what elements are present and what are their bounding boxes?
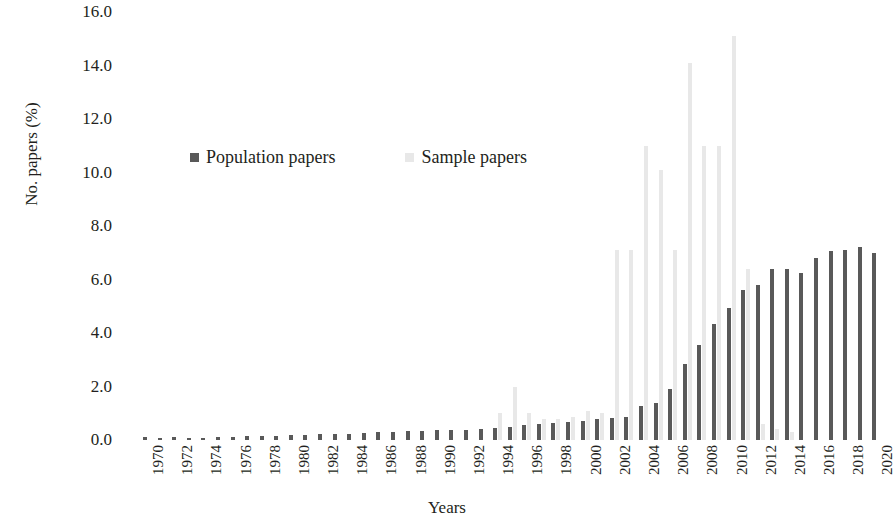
bar-group [330,12,345,440]
bar-population-papers [391,432,395,440]
bar-population-papers [508,427,512,440]
bar-group [534,12,549,440]
bar-sample-papers [790,432,794,440]
bar-group [271,12,286,440]
bar-population-papers [260,436,264,440]
bar-population-papers [756,285,760,440]
bar-population-papers [522,425,526,440]
bar-group [694,12,709,440]
bar-group [621,12,636,440]
y-axis-tick-label: 0.0 [30,431,112,448]
bar-group [446,12,461,440]
bar-population-papers [420,431,424,440]
bar-chart: No. papers (%) 16.014.012.010.08.06.04.0… [0,0,894,526]
bar-population-papers [143,437,147,440]
bar-population-papers [303,435,307,440]
bar-population-papers [172,437,176,440]
legend-item: Sample papers [405,147,526,168]
bar-group [840,12,855,440]
bar-population-papers [799,273,803,440]
bar-group [300,12,315,440]
bar-group [796,12,811,440]
bar-population-papers [493,428,497,440]
bar-population-papers [668,389,672,440]
bar-population-papers [610,418,614,440]
bar-population-papers [624,417,628,440]
bar-group [155,12,170,440]
bar-population-papers [347,434,351,440]
x-axis-title: Years [0,498,894,518]
chart-legend: Population papersSample papers [190,146,527,168]
bar-sample-papers [513,387,517,441]
bar-population-papers [245,436,249,440]
bar-population-papers [858,247,862,440]
bar-group [651,12,666,440]
y-axis-tick-label: 4.0 [30,324,112,341]
bar-group [228,12,243,440]
bar-group [578,12,593,440]
bar-group [592,12,607,440]
bar-population-papers [376,432,380,440]
y-axis-tick-label: 2.0 [30,378,112,395]
bar-group [432,12,447,440]
bar-population-papers [362,433,366,440]
bar-group [811,12,826,440]
bar-sample-papers [717,146,721,440]
y-axis-tick-label: 8.0 [30,217,112,234]
bar-sample-papers [527,413,531,440]
bar-group [373,12,388,440]
y-axis-tick-label: 14.0 [30,57,112,74]
bar-sample-papers [702,146,706,440]
bar-population-papers [785,269,789,440]
legend-label: Sample papers [421,147,526,168]
bar-group [782,12,797,440]
bar-population-papers [479,429,483,440]
bar-sample-papers [673,250,677,440]
bar-group [607,12,622,440]
bar-group [665,12,680,440]
bar-population-papers [289,435,293,440]
bar-group [869,12,884,440]
bar-group [359,12,374,440]
y-axis-tick-label: 12.0 [30,110,112,127]
bar-group [490,12,505,440]
bar-group [563,12,578,440]
bar-group [169,12,184,440]
bar-population-papers [814,258,818,440]
bar-group [505,12,520,440]
bar-sample-papers [644,146,648,440]
bar-population-papers [595,419,599,440]
bar-population-papers [712,324,716,440]
bar-sample-papers [761,424,765,440]
bar-group [519,12,534,440]
bar-population-papers [187,438,191,440]
bar-group [286,12,301,440]
legend-label: Population papers [206,147,335,168]
bar-group [724,12,739,440]
bar-group [388,12,403,440]
bar-sample-papers [498,413,502,440]
bar-population-papers [216,437,220,440]
bar-group [680,12,695,440]
bar-sample-papers [586,411,590,440]
bar-population-papers [770,269,774,440]
bar-group [344,12,359,440]
bar-group [213,12,228,440]
bar-population-papers [318,434,322,440]
bar-sample-papers [571,417,575,440]
bar-population-papers [464,430,468,440]
bar-population-papers [537,424,541,440]
bar-group [257,12,272,440]
bar-group [767,12,782,440]
bar-sample-papers [659,170,663,440]
bar-population-papers [158,438,162,440]
y-axis-tick-label: 10.0 [30,164,112,181]
bar-population-papers [654,403,658,440]
bar-group [476,12,491,440]
x-axis-tick-labels: 1970197219741976197819801982198419861988… [140,444,884,500]
bar-group [709,12,724,440]
y-axis-tick-label: 6.0 [30,271,112,288]
bar-population-papers [829,251,833,440]
bar-group [198,12,213,440]
bar-population-papers [333,434,337,440]
